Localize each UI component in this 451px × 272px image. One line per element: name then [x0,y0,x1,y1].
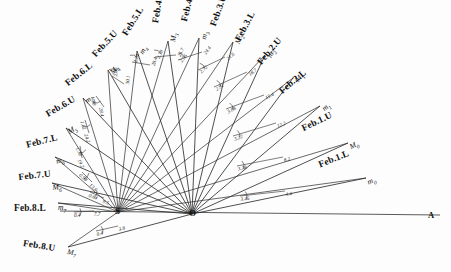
origin-label-S: S [115,206,120,216]
point-index: 7 [63,208,66,214]
ray-from-S-6 [118,38,199,212]
measurement-outer-10: 28.4 [98,107,105,117]
endpoint-label-A: A [428,210,434,220]
point-marker-M6: M6 [52,182,62,193]
measurement-inner-9: 2.06 [112,67,119,77]
point-marker-M3: M3 [168,32,180,43]
diagram-canvas [0,0,451,272]
point-marker-m7: m7 [58,203,66,214]
date-label-feb-8-l: Feb.8.L [14,203,46,213]
measurement-inner-15: 0.4 [74,212,80,218]
measurement-inner-0: 3.46 [240,195,250,202]
point-index: 6 [59,187,62,193]
ray-from-S-7 [118,41,168,212]
ray-from-O-0 [192,178,366,214]
point-marker-M7: M7 [66,247,77,259]
point-index: 3 [205,31,211,35]
measurement-outer-9: 30.1 [124,75,131,85]
ray-from-O-1 [192,143,348,214]
measurement-inner-16: 0.4 [96,230,103,237]
measurement-outer-16: 3.8 [118,225,125,232]
ray-from-O-3 [192,78,293,214]
ray-from-S-1 [118,143,348,212]
origin-label-O: O [189,208,196,218]
measurement-outer-15: 7.7 [94,211,100,217]
measurement-inner-10: 1.88 [90,96,97,106]
measurement-outer-0: 4.4 [285,190,292,197]
orbit-ray-diagram: Feb.1.LFeb.1.UFeb.2.LFeb.2.UFeb.3.LFeb.3… [0,0,451,272]
ray-from-O-8 [137,51,192,214]
ray-from-S-9 [108,70,118,212]
ray-from-S-4 [118,55,265,212]
ray-from-O-7 [168,41,192,214]
ray-from-O-15 [68,214,192,247]
point-index: 3 [174,33,180,37]
ray-from-O-4 [192,55,265,214]
